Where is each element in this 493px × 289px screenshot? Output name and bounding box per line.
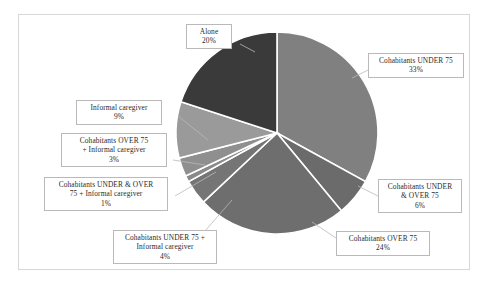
callout-cohabitants-under-75[interactable]: Cohabitants UNDER 75 33%: [368, 53, 464, 78]
callout-cohabitants-over-75[interactable]: Cohabitants OVER 75 24%: [336, 231, 430, 256]
callout-cohabitants-over-75-label: Cohabitants OVER 75: [349, 234, 417, 243]
callout-informal-caregiver-label: Informal caregiver: [91, 103, 148, 112]
callout-cohabitants-under-and-over-75-percent: 6%: [382, 201, 458, 210]
callout-cohabitants-under-and-over-75-line2: & OVER 75: [382, 191, 458, 200]
callout-cohabitants-over-75-informal-percent: 3%: [65, 155, 163, 164]
callout-cohabitants-under-75-informal-percent: 4%: [117, 252, 213, 261]
callout-cohabitants-under-over-75-informal-line2: 75 + Informal caregiver: [48, 189, 164, 198]
callout-alone-label: Alone: [200, 27, 219, 36]
callout-cohabitants-under-and-over-75[interactable]: Cohabitants UNDER & OVER 75 6%: [378, 179, 462, 213]
callout-alone-percent: 20%: [190, 36, 228, 45]
callout-cohabitants-over-75-informal-line1: Cohabitants OVER 75: [80, 136, 148, 145]
callout-informal-caregiver-percent: 9%: [80, 112, 158, 121]
callout-cohabitants-under-75-informal-line1: Cohabitants UNDER 75 +: [125, 233, 205, 242]
callout-cohabitants-over-75-informal-caregiver[interactable]: Cohabitants OVER 75 + Informal caregiver…: [61, 133, 167, 167]
pie-chart-figure: Alone 20% Cohabitants UNDER 75 33% Cohab…: [0, 0, 493, 289]
callout-alone[interactable]: Alone 20%: [186, 24, 232, 49]
callout-cohabitants-under-75-informal-caregiver[interactable]: Cohabitants UNDER 75 + Informal caregive…: [113, 230, 217, 264]
callout-cohabitants-over-75-informal-line2: + Informal caregiver: [65, 145, 163, 154]
callout-cohabitants-under-over-75-informal-caregiver[interactable]: Cohabitants UNDER & OVER 75 + Informal c…: [44, 177, 168, 211]
callout-cohabitants-under-75-label: Cohabitants UNDER 75: [379, 56, 453, 65]
callout-cohabitants-over-75-percent: 24%: [340, 243, 426, 252]
callout-cohabitants-under-over-75-informal-line1: Cohabitants UNDER & OVER: [59, 180, 154, 189]
callout-informal-caregiver[interactable]: Informal caregiver 9%: [76, 100, 162, 125]
callout-cohabitants-under-and-over-75-line1: Cohabitants UNDER: [388, 182, 452, 191]
callout-cohabitants-under-75-informal-line2: Informal caregiver: [117, 242, 213, 251]
callout-cohabitants-under-75-percent: 33%: [372, 65, 460, 74]
callout-cohabitants-under-over-75-informal-percent: 1%: [48, 199, 164, 208]
